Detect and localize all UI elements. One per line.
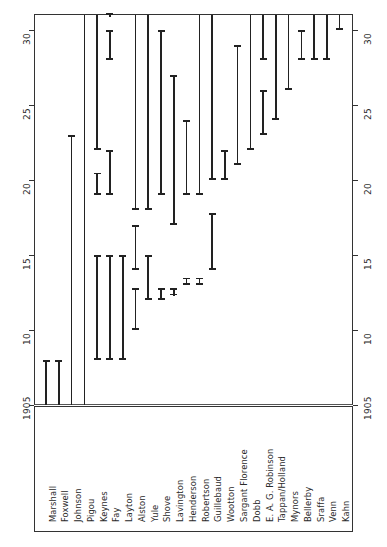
interval-cap bbox=[209, 178, 216, 180]
interval-cap bbox=[323, 58, 330, 60]
interval-cap bbox=[132, 225, 139, 227]
interval-bar bbox=[211, 213, 213, 270]
interval-bar bbox=[135, 225, 137, 270]
interval-bar bbox=[96, 173, 98, 196]
interval-bar bbox=[135, 288, 137, 330]
interval-cap bbox=[132, 288, 139, 290]
axis-tick-right bbox=[353, 255, 358, 256]
interval-cap bbox=[170, 288, 177, 290]
interval-bar bbox=[109, 30, 111, 60]
axis-tick-right bbox=[353, 105, 358, 106]
category-label: Tappan/Holland bbox=[277, 456, 287, 522]
interval-cap bbox=[94, 255, 101, 257]
interval-cap bbox=[145, 298, 152, 300]
interval-cap bbox=[106, 255, 113, 257]
interval-bar bbox=[96, 255, 98, 360]
interval-cap bbox=[234, 163, 241, 165]
category-label: Keynes bbox=[99, 491, 109, 522]
category-label: E. A. G. Robinson bbox=[265, 449, 275, 522]
interval-bar bbox=[58, 360, 60, 405]
category-label: Venn bbox=[328, 501, 338, 522]
interval-cap bbox=[260, 90, 267, 92]
interval-bar bbox=[326, 15, 328, 60]
interval-bar bbox=[135, 15, 137, 210]
interval-cap bbox=[94, 148, 101, 150]
interval-cap bbox=[170, 223, 177, 225]
axis-tick-left bbox=[29, 180, 34, 181]
category-label: Dobb bbox=[252, 499, 262, 522]
interval-cap bbox=[170, 75, 177, 77]
axis-tick-label-right: 1905 bbox=[363, 396, 373, 420]
interval-cap bbox=[106, 58, 113, 60]
interval-bar bbox=[262, 90, 264, 135]
axis-tick-label-left: 20 bbox=[22, 183, 32, 195]
interval-cap bbox=[183, 193, 190, 195]
interval-bar bbox=[109, 255, 111, 360]
interval-bar bbox=[84, 15, 86, 405]
interval-cap bbox=[209, 268, 216, 270]
category-label: Bellerby bbox=[303, 487, 313, 522]
interval-cap bbox=[183, 283, 190, 285]
category-label: Sargant Florence bbox=[239, 449, 249, 522]
interval-cap bbox=[260, 58, 267, 60]
category-label: Kahn bbox=[341, 501, 351, 523]
interval-cap bbox=[94, 358, 101, 360]
interval-cap bbox=[106, 150, 113, 152]
category-label: Pigou bbox=[86, 499, 96, 522]
interval-cap bbox=[170, 294, 177, 296]
category-label: Johnson bbox=[73, 488, 83, 522]
interval-cap bbox=[234, 45, 241, 47]
axis-tick-right bbox=[353, 30, 358, 31]
interval-bar bbox=[96, 15, 98, 150]
interval-bar bbox=[147, 15, 149, 210]
axis-tick-label-right: 20 bbox=[363, 183, 373, 195]
interval-cap bbox=[298, 58, 305, 60]
interval-cap bbox=[94, 173, 101, 175]
category-label: Yule bbox=[150, 505, 160, 522]
interval-cap bbox=[196, 283, 203, 285]
category-label: Sraffa bbox=[316, 496, 326, 522]
interval-cap bbox=[298, 30, 305, 32]
category-label: Wootton bbox=[226, 486, 236, 522]
interval-cap bbox=[221, 150, 228, 152]
category-label: Robertson bbox=[201, 479, 211, 522]
interval-cap bbox=[55, 360, 62, 362]
axis-tick-left bbox=[29, 105, 34, 106]
axis-tick-label-right: 10 bbox=[363, 333, 373, 345]
category-label: Guillebaud bbox=[213, 476, 223, 522]
axis-tick-label-left: 1905 bbox=[22, 396, 32, 420]
interval-bar bbox=[186, 120, 188, 195]
interval-bar bbox=[122, 255, 124, 360]
interval-cap bbox=[272, 118, 279, 120]
interval-cap bbox=[221, 178, 228, 180]
axis-tick-right bbox=[353, 180, 358, 181]
interval-cap bbox=[106, 13, 113, 15]
axis-tick-label-right: 30 bbox=[363, 33, 373, 45]
axis-tick-right bbox=[353, 405, 358, 406]
axis-tick-label-left: 25 bbox=[22, 108, 32, 120]
interval-bar bbox=[224, 150, 226, 180]
interval-cap bbox=[132, 328, 139, 330]
interval-cap bbox=[158, 193, 165, 195]
axis-tick-label-left: 30 bbox=[22, 33, 32, 45]
interval-cap bbox=[119, 255, 126, 257]
interval-cap bbox=[285, 88, 292, 90]
category-label: Lavington bbox=[175, 480, 185, 522]
axis-tick-label-right: 25 bbox=[363, 108, 373, 120]
interval-bar bbox=[173, 75, 175, 225]
chart-figure: 1905190510101515202025253030MarshallFoxw… bbox=[0, 0, 387, 547]
axis-tick-right bbox=[353, 330, 358, 331]
interval-cap bbox=[183, 278, 190, 280]
interval-cap bbox=[145, 255, 152, 257]
plot-panel bbox=[34, 14, 353, 405]
interval-cap bbox=[209, 213, 216, 215]
interval-cap bbox=[119, 358, 126, 360]
interval-cap bbox=[247, 148, 254, 150]
category-label: Marshall bbox=[48, 486, 58, 522]
interval-bar bbox=[45, 360, 47, 405]
category-label: Shove bbox=[162, 496, 172, 522]
interval-bar bbox=[275, 15, 277, 120]
axis-tick-left bbox=[29, 330, 34, 331]
axis-tick-label-left: 15 bbox=[22, 258, 32, 270]
interval-bar bbox=[199, 15, 201, 195]
